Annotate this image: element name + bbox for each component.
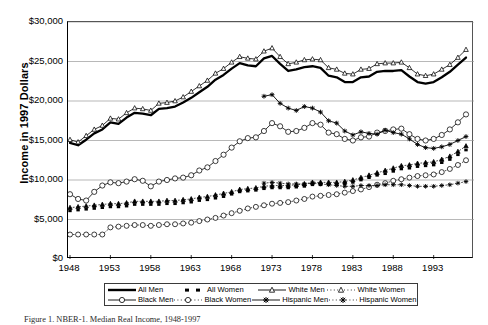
x-tick-label: 1993 [413,262,453,273]
x-axis-tick-labels: 1948195319581963196819731978198319881993 [67,262,473,276]
x-tick-label: 1958 [130,262,170,273]
x-tick-label: 1983 [332,262,372,273]
legend-item-hispanic-women[interactable]: Hispanic Women [328,295,416,305]
legend-row-2: Black MenBlack WomenHispanic MenHispanic… [107,295,415,305]
legend-item-label: Black Women [203,296,251,304]
chart-legend: All MenAll WomenWhite MenWhite Women Bla… [104,283,418,306]
line-open-circle-icon [107,295,137,305]
legend-item-black-women[interactable]: Black Women [173,295,251,305]
plot-area [67,21,473,258]
dotted-open-triangle-icon [326,285,356,295]
series-canvas [68,22,474,259]
y-tick-label: $10,000 [7,174,63,183]
line-open-triangle-icon [257,285,287,295]
y-tick-label: $0 [7,253,63,262]
legend-item-all-men[interactable]: All Men [107,285,176,295]
y-axis-tick-labels: $0$5,000$10,000$15,000$20,000$25,000$30,… [3,0,63,325]
legend-item-white-men[interactable]: White Men [257,285,326,295]
x-tick-label: 1973 [251,262,291,273]
dashed-thick-square-icon [176,285,206,295]
figure-container: Income in 1997 Dollars $0$5,000$10,000$1… [0,0,488,325]
dotted-open-circle-icon [173,295,203,305]
legend-item-label: White Women [356,286,405,294]
y-tick-label: $15,000 [7,135,63,144]
x-tick-label: 1948 [49,262,89,273]
legend-item-black-men[interactable]: Black Men [107,295,173,305]
line-filled-star-icon [251,295,281,305]
y-tick-label: $20,000 [7,95,63,104]
x-tick-label: 1988 [372,262,412,273]
x-tick-label: 1968 [211,262,251,273]
solid-thick-line-icon [107,285,137,295]
legend-item-hispanic-men[interactable]: Hispanic Men [251,295,328,305]
legend-item-label: White Men [287,286,324,294]
y-tick-label: $5,000 [7,214,63,223]
x-tick-label: 1953 [89,262,129,273]
legend-item-label: Hispanic Men [281,296,328,304]
x-tick-label: 1963 [170,262,210,273]
y-tick-label: $30,000 [7,16,63,25]
legend-item-white-women[interactable]: White Women [326,285,415,295]
legend-item-all-women[interactable]: All Women [176,285,257,295]
legend-item-label: Hispanic Women [358,296,416,304]
dotted-asterisk-icon [328,295,358,305]
x-tick-label: 1978 [291,262,331,273]
legend-item-label: All Men [137,286,163,294]
legend-item-label: All Women [206,286,244,294]
figure-caption: Figure 1. NBER-1. Median Real Income, 19… [24,315,464,325]
legend-row-1: All MenAll WomenWhite MenWhite Women [107,285,415,295]
legend-item-label: Black Men [137,296,173,304]
y-tick-label: $25,000 [7,56,63,65]
